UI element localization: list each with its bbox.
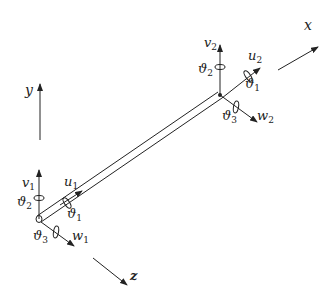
global-z-axis: z <box>93 258 138 285</box>
y-axis-label: y <box>24 82 34 98</box>
node2-theta-w-label: ϑ3 <box>222 108 237 125</box>
node1-theta-w-label: ϑ3 <box>33 228 48 245</box>
node1-theta-u-label: ϑ1 <box>67 206 82 223</box>
node1-theta-v-label: ϑ2 <box>17 194 32 211</box>
z-axis-label: z <box>129 268 138 283</box>
node2-w-label: w2 <box>257 108 274 125</box>
node2-u-label: u2 <box>248 48 262 65</box>
node2-theta-u-label: ϑ1 <box>245 76 260 93</box>
node1-v-label: v1 <box>22 175 35 192</box>
node2-v-label: v2 <box>204 35 217 52</box>
beam-element-diagram: x y z v1 ϑ2 u1 ϑ1 w1 ϑ3 v2 ϑ2 u2 <box>0 0 336 304</box>
global-x-axis: x <box>278 17 318 70</box>
node1-rotation-w-icon <box>52 226 59 239</box>
global-y-axis: y <box>24 82 40 140</box>
x-axis-label: x <box>304 17 312 33</box>
node2-dofs: v2 ϑ2 u2 ϑ1 w2 ϑ3 <box>198 35 274 125</box>
node2-theta-v-label: ϑ2 <box>198 61 213 78</box>
node1-u-label: u1 <box>64 174 78 191</box>
node1-w-label: w1 <box>72 228 89 245</box>
node1-dofs: v1 ϑ2 u1 ϑ1 w1 ϑ3 <box>17 170 89 246</box>
